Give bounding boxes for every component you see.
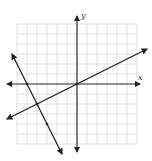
point-marker (36, 103, 39, 106)
point-marker (76, 83, 79, 86)
coordinate-plane: x y (0, 0, 152, 161)
y-axis-label: y (80, 11, 86, 20)
x-axis-label: x (138, 73, 143, 82)
point-marker (46, 123, 49, 126)
point-marker (26, 83, 29, 86)
